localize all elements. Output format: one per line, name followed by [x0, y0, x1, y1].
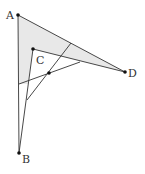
label-a: A [5, 9, 15, 22]
label-c: C [36, 54, 44, 67]
point-b [17, 151, 21, 155]
geometry-diagram: A B C D [0, 0, 145, 174]
point-e [47, 71, 51, 75]
point-c [31, 47, 35, 51]
point-d [123, 70, 127, 74]
label-b: B [22, 153, 30, 166]
label-d: D [128, 67, 137, 80]
point-a [16, 13, 20, 17]
